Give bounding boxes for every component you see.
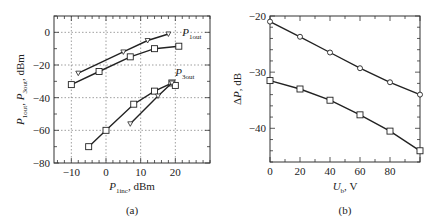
panel-caption: (a) <box>126 204 139 217</box>
x-tick-label: 80 <box>385 165 397 177</box>
square-marker <box>127 54 133 60</box>
y-tick-label: −60 <box>33 124 51 136</box>
square-marker <box>152 46 158 52</box>
plot-frame <box>270 16 420 162</box>
chart-b: 020406080−20−30−40(b)Ub, VΔP, dB <box>231 10 423 217</box>
square-marker <box>96 69 102 75</box>
series-line <box>270 22 420 95</box>
x-tick-label: 10 <box>135 166 147 178</box>
circle-marker <box>298 34 303 39</box>
y-tick-label: −30 <box>249 66 267 78</box>
x-tick-label: 20 <box>170 166 182 178</box>
y-axis-label: ΔP, dB <box>231 73 243 105</box>
square-marker <box>86 144 92 150</box>
circle-marker <box>268 19 273 24</box>
square-marker <box>357 112 363 118</box>
circle-marker <box>388 80 393 85</box>
circle-marker <box>328 50 333 55</box>
triangle-marker <box>76 71 81 76</box>
x-tick-label: 60 <box>355 165 367 177</box>
y-axis-label: P1out, P3out, dBm <box>14 54 29 126</box>
y-tick-label: 0 <box>45 26 51 38</box>
x-axis-label: P1inc, dBm <box>108 180 155 195</box>
panel-caption: (b) <box>339 204 352 217</box>
chart-a: −10010200−20−40−60−80P1outP3out(a)P1inc,… <box>14 16 210 217</box>
square-marker <box>103 127 109 133</box>
square-marker <box>387 128 393 134</box>
x-axis-label: Ub, V <box>333 180 358 195</box>
square-marker <box>152 88 158 94</box>
circle-marker <box>418 92 423 97</box>
plot-frame <box>54 16 210 163</box>
x-tick-label: 0 <box>267 165 273 177</box>
y-tick-label: −40 <box>249 122 267 134</box>
y-tick-label: −20 <box>249 10 267 22</box>
square-marker <box>131 101 137 107</box>
square-marker <box>327 97 333 103</box>
x-tick-label: 20 <box>295 165 307 177</box>
series-line <box>270 81 420 151</box>
y-tick-label: −80 <box>33 157 51 169</box>
square-marker <box>267 78 273 84</box>
square-marker <box>297 86 303 92</box>
x-tick-label: −10 <box>63 166 81 178</box>
square-marker <box>68 82 74 88</box>
circle-marker <box>358 66 363 71</box>
x-tick-label: 40 <box>325 165 337 177</box>
figure: −10010200−20−40−60−80P1outP3out(a)P1inc,… <box>0 0 437 223</box>
square-marker <box>176 43 182 49</box>
series-annotation: P3out <box>174 66 194 81</box>
x-tick-label: 0 <box>103 166 109 178</box>
triangle-marker <box>128 122 133 127</box>
square-marker <box>417 148 423 154</box>
y-tick-label: −40 <box>33 92 51 104</box>
y-tick-label: −20 <box>33 59 51 71</box>
series-annotation: P1out <box>181 26 201 41</box>
